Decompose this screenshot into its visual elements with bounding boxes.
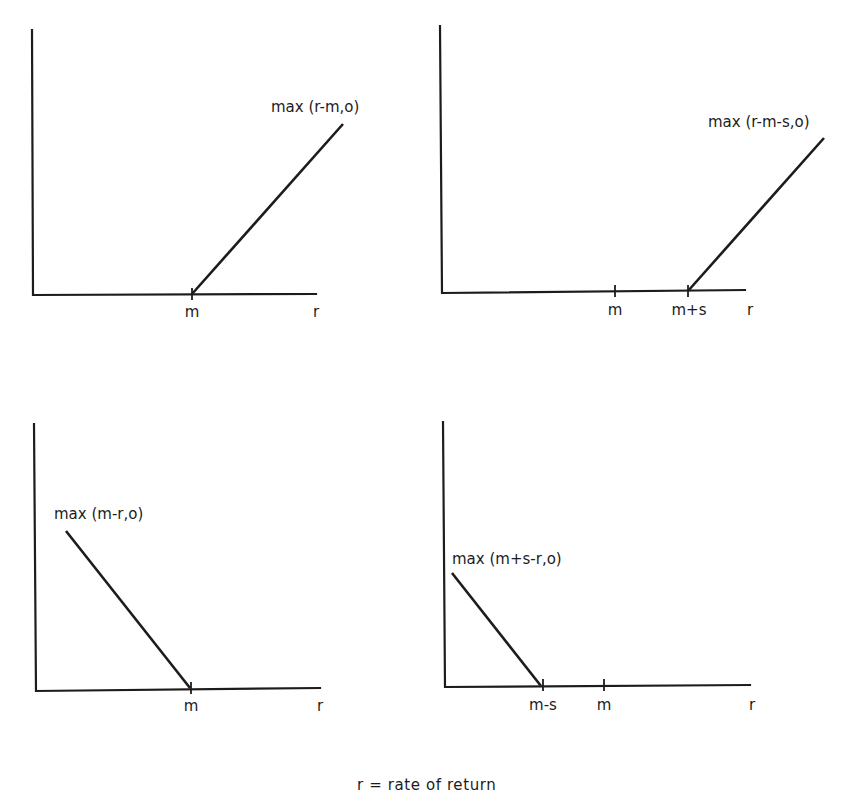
- axes: [32, 30, 316, 295]
- figure-canvas: max (r-m,o) m r max (r-m-s,o) m m+s r ma…: [0, 0, 847, 805]
- panel-bottom-right: max (m+s-r,o) m-s m r: [443, 422, 756, 714]
- tick-label-m: m: [185, 303, 200, 321]
- payoff-line: [452, 573, 541, 686]
- panel-top-right: max (r-m-s,o) m m+s r: [440, 26, 824, 319]
- x-axis-label: r: [749, 696, 756, 714]
- tick-label-m: m: [608, 301, 623, 319]
- x-axis-label: r: [313, 303, 320, 321]
- axes: [440, 26, 745, 293]
- payoff-line: [192, 124, 343, 294]
- function-label: max (r-m-s,o): [708, 113, 810, 131]
- caption-line-1: r = rate of return: [357, 776, 496, 794]
- function-label: max (r-m,o): [271, 98, 359, 116]
- payoff-diagram-figure: max (r-m,o) m r max (r-m-s,o) m m+s r ma…: [0, 0, 847, 805]
- tick-label-m: m: [184, 697, 199, 715]
- function-label: max (m+s-r,o): [452, 550, 562, 568]
- function-label: max (m-r,o): [54, 505, 143, 523]
- tick-label-m: m: [597, 696, 612, 714]
- payoff-line: [66, 531, 190, 688]
- x-axis-label: r: [747, 301, 754, 319]
- tick-label-m-minus-s: m-s: [529, 696, 557, 714]
- payoff-line: [688, 138, 824, 291]
- panel-top-left: max (r-m,o) m r: [32, 30, 359, 321]
- axes: [34, 424, 320, 691]
- panel-bottom-left: max (m-r,o) m r: [34, 424, 324, 715]
- tick-label-m-plus-s: m+s: [672, 301, 707, 319]
- x-axis-label: r: [317, 697, 324, 715]
